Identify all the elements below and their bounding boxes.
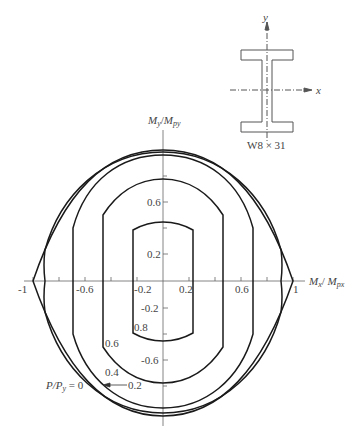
interaction-diagram (0, 0, 361, 440)
x-axis-label: Mx/ Mpx (309, 276, 344, 289)
y-axis-label: My/Mpy (148, 115, 181, 128)
y-tick-label: -0.6 (141, 355, 158, 366)
x-tick-label: 0.2 (179, 284, 193, 295)
leader-arrow (103, 383, 127, 387)
y-tick-label: -0.2 (141, 303, 158, 314)
y-tick-label: 0.6 (147, 197, 161, 208)
x-tick-label: 0.6 (235, 284, 249, 295)
section-y-label: y (263, 12, 268, 23)
x-tick-label: -1 (18, 284, 27, 295)
curve-label-0: P/Py = 0 (46, 380, 83, 393)
wide-flange-section (230, 22, 312, 142)
curve-label-06: 0.6 (105, 338, 119, 349)
y-tick-label: 0.2 (147, 249, 161, 260)
curve-label-08: 0.8 (134, 322, 148, 333)
curve-label-04: 0.4 (105, 367, 119, 378)
x-tick-label: -0.2 (134, 284, 151, 295)
curve-label-02: 0.2 (128, 380, 142, 391)
x-tick-label: 1 (293, 284, 299, 295)
x-tick-label: -0.6 (76, 284, 93, 295)
section-x-label: x (316, 85, 321, 96)
section-designation: W8 × 31 (247, 140, 286, 151)
